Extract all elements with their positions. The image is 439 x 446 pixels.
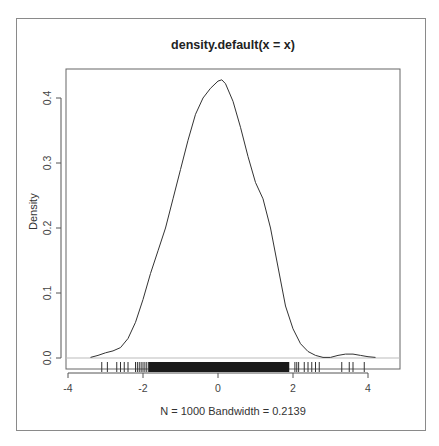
x-tick-label: 4 [365, 382, 371, 394]
x-tick-label: 2 [290, 382, 296, 394]
density-curve [91, 80, 376, 358]
x-tick-label: -2 [138, 382, 147, 394]
x-tick-label: 0 [215, 382, 221, 394]
y-tick-label: 0.4 [41, 91, 53, 106]
x-tick-label: -4 [63, 382, 72, 394]
y-tick-label: 0.2 [41, 221, 53, 236]
y-tick-label: 0.1 [41, 286, 53, 301]
plot-area [66, 69, 400, 369]
rug-dense [149, 362, 290, 372]
density-plot: 0.00.10.20.30.4-4-2024 [0, 0, 439, 446]
y-tick-label: 0.3 [41, 156, 53, 171]
y-tick-label: 0.0 [41, 351, 53, 366]
